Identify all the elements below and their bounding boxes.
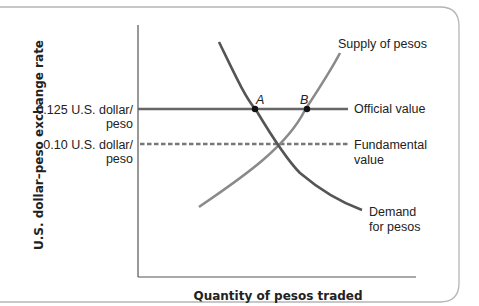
y-tick-010-line2: peso <box>106 152 133 166</box>
fundamental-value-label-line1: Fundamental <box>354 138 427 152</box>
figure-frame <box>0 7 459 302</box>
y-axis-title: U.S. dollar–peso exchange rate <box>32 40 46 250</box>
fundamental-value-label-line2: value <box>354 153 384 167</box>
y-tick-0125-line1: 0.125 U.S. dollar/ <box>36 103 133 117</box>
y-tick-010-line1: 0.10 U.S. dollar/ <box>43 138 133 152</box>
official-value-label: Official value <box>354 102 425 116</box>
x-axis-title: Quantity of pesos traded <box>193 289 362 303</box>
demand-label-line1: Demand <box>369 205 416 219</box>
demand-curve <box>219 42 362 210</box>
supply-label: Supply of pesos <box>338 37 427 51</box>
point-b-label: B <box>300 93 308 107</box>
y-tick-0125-line2: peso <box>106 117 133 131</box>
exchange-rate-chart: A B Supply of pesos Official value Funda… <box>0 0 479 306</box>
point-a-label: A <box>255 93 264 107</box>
demand-label-line2: for pesos <box>369 220 420 234</box>
